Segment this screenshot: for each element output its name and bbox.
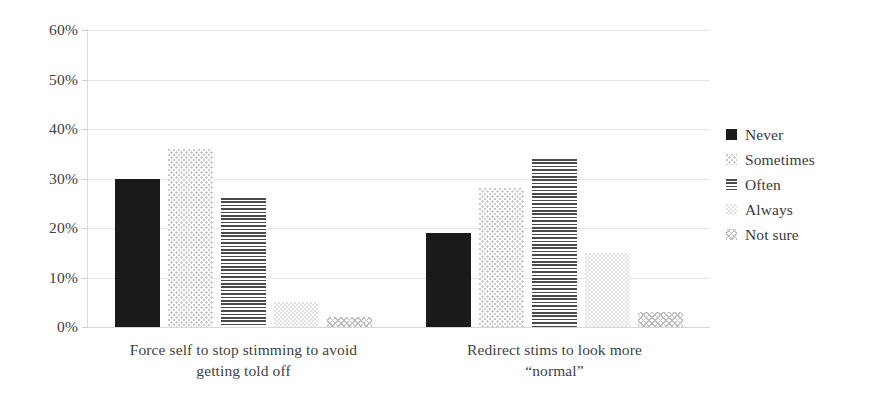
legend-swatch-icon: [726, 229, 737, 240]
legend-swatch-icon: [726, 154, 737, 165]
y-axis-tick-label: 40%: [18, 120, 78, 138]
x-axis-category-label-line: Redirect stims to look more: [399, 339, 710, 360]
legend-item-never[interactable]: Never: [726, 122, 866, 147]
y-axis-tick-label: 60%: [18, 21, 78, 39]
x-axis-category-label: Redirect stims to look more“normal”: [399, 339, 710, 381]
y-axis-tick-mark: [82, 278, 88, 279]
bar-group: [399, 30, 710, 327]
legend-item-label: Sometimes: [745, 151, 815, 169]
y-axis-tick-label: 0%: [18, 318, 78, 336]
legend-item-label: Often: [745, 176, 781, 194]
legend-swatch-icon: [726, 179, 737, 190]
y-axis-tick-label: 20%: [18, 219, 78, 237]
bar-never: [426, 233, 471, 327]
bar-always: [585, 253, 630, 327]
bar-sometimes: [168, 149, 213, 327]
legend-item-label: Never: [745, 126, 783, 144]
bar-never: [115, 179, 160, 328]
bar-not-sure: [327, 317, 372, 327]
legend-swatch-icon: [726, 129, 737, 140]
legend-swatch-icon: [726, 204, 737, 215]
gridline: [88, 327, 710, 328]
bar-group: [88, 30, 399, 327]
y-axis-tick-label: 10%: [18, 269, 78, 287]
legend-item-always[interactable]: Always: [726, 197, 866, 222]
bar-sometimes: [479, 188, 524, 327]
chart-legend: NeverSometimesOftenAlwaysNot sure: [726, 122, 866, 247]
legend-item-label: Not sure: [745, 226, 799, 244]
bar-often: [532, 159, 577, 327]
y-axis-tick-mark: [82, 228, 88, 229]
legend-item-not-sure[interactable]: Not sure: [726, 222, 866, 247]
x-axis-category-label: Force self to stop stimming to avoidgett…: [88, 339, 399, 381]
plot-area: [88, 30, 710, 327]
y-axis-tick-mark: [82, 30, 88, 31]
x-axis-category-label-line: getting told off: [88, 360, 399, 381]
bar-chart: 60%50%40%30%20%10%0% NeverSometimesOften…: [0, 0, 876, 415]
legend-item-label: Always: [745, 201, 793, 219]
y-axis-tick-label: 30%: [18, 170, 78, 188]
y-axis-tick-label: 50%: [18, 71, 78, 89]
bar-not-sure: [638, 312, 683, 327]
bar-often: [221, 198, 266, 327]
y-axis: 60%50%40%30%20%10%0%: [14, 0, 78, 415]
bar-always: [274, 302, 319, 327]
legend-item-often[interactable]: Often: [726, 172, 866, 197]
x-axis-category-label-line: “normal”: [399, 360, 710, 381]
y-axis-tick-mark: [82, 129, 88, 130]
x-axis-category-label-line: Force self to stop stimming to avoid: [88, 339, 399, 360]
y-axis-tick-mark: [82, 327, 88, 328]
legend-item-sometimes[interactable]: Sometimes: [726, 147, 866, 172]
y-axis-tick-mark: [82, 80, 88, 81]
y-axis-tick-mark: [82, 179, 88, 180]
